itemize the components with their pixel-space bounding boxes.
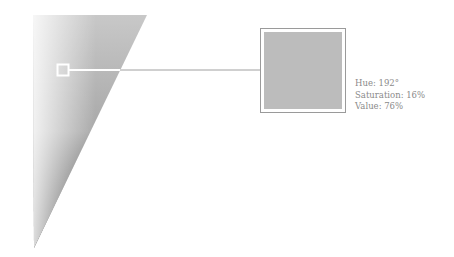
color-picker-diagram: [0, 0, 454, 257]
saturation-readout: Saturation: 16%: [355, 90, 425, 102]
color-swatch-preview: [261, 29, 346, 113]
value-readout: Value: 76%: [355, 101, 425, 113]
value-saturation-triangle[interactable]: [33, 15, 147, 248]
triangle-white-overlay: [33, 15, 147, 248]
swatch-fill: [264, 32, 342, 109]
color-info-panel: Hue: 192° Saturation: 16% Value: 76%: [355, 78, 425, 113]
hue-readout: Hue: 192°: [355, 78, 425, 90]
